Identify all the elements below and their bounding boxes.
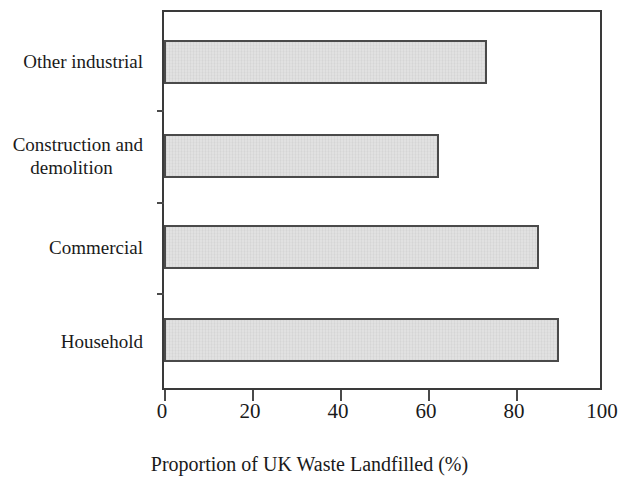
y-axis-tick-3 [157, 293, 164, 295]
bar-commercial [164, 225, 539, 269]
x-axis-title: Proportion of UK Waste Landfilled (%) [0, 452, 619, 476]
y-category-label-construction-line1: Construction and [13, 134, 143, 155]
y-category-label-household: Household [0, 330, 152, 353]
y-category-label-construction-demolition: Construction anddemolition [0, 133, 152, 179]
x-axis-tick-label-60: 60 [396, 399, 456, 423]
y-category-label-other-industrial: Other industrial [0, 50, 152, 73]
x-axis-tick-label-80: 80 [484, 399, 544, 423]
bar-household [164, 318, 559, 362]
y-category-label-construction-line2: demolition [0, 156, 143, 179]
x-axis-tick-label-40: 40 [308, 399, 368, 423]
y-axis-tick-2 [157, 202, 164, 204]
x-axis-tick-label-20: 20 [220, 399, 280, 423]
bar-construction-and-demolition [164, 134, 439, 178]
y-category-label-commercial: Commercial [0, 236, 152, 259]
plot-area [162, 10, 602, 390]
x-axis-tick-label-100: 100 [572, 399, 619, 423]
y-axis-tick-1 [157, 110, 164, 112]
bar-other-industrial [164, 40, 487, 84]
bar-chart-figure: Other industrial Construction anddemolit… [0, 0, 619, 484]
x-axis-tick-label-0: 0 [132, 399, 192, 423]
